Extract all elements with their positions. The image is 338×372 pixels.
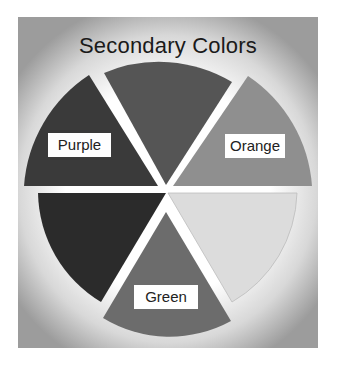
label-orange: Orange [225, 134, 285, 158]
label-green: Green [134, 285, 198, 309]
color-wheel-frame: Secondary Colors Purple Orange Green [18, 17, 318, 348]
label-purple: Purple [48, 133, 111, 157]
